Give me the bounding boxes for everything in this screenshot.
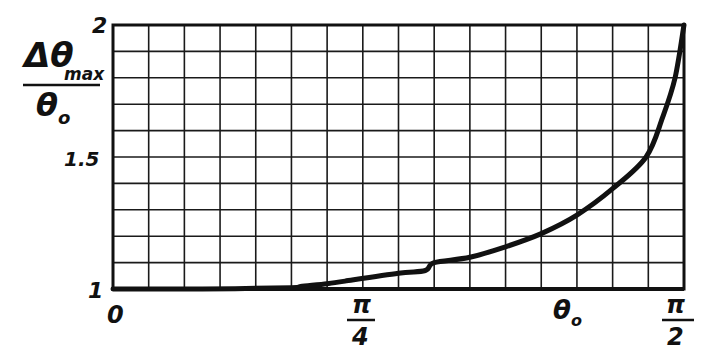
y-tick-1: 1 (88, 278, 103, 303)
y-tick-2: 2 (92, 13, 107, 38)
x-label-theta: θ (553, 295, 571, 325)
x-tick-pi-over-2-num: π (666, 291, 685, 319)
x-tick-pi-over-4-den: 4 (351, 323, 369, 351)
grid-lines (113, 25, 684, 289)
y-tick-1-5: 1.5 (64, 147, 99, 171)
chart: Δθ max θ o 2 1.5 1 0 π 4 θ o π 2 (0, 0, 718, 356)
x-tick-pi-over-2-den: 2 (667, 323, 684, 351)
y-label-denominator: θ (36, 86, 58, 124)
y-label-subscript: max (64, 64, 105, 84)
x-label-sub: o (571, 311, 582, 330)
x-tick-pi-over-4-num: π (352, 291, 371, 319)
y-label-denominator-sub: o (58, 107, 70, 128)
x-tick-0: 0 (107, 301, 124, 329)
